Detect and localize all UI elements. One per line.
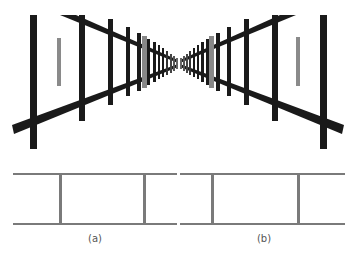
right-post [180, 58, 182, 69]
right-post [201, 42, 204, 82]
right-post [272, 15, 278, 121]
ladder-a-rung [59, 174, 62, 224]
panel-label-b: (b) [257, 233, 271, 244]
left-post [173, 56, 175, 71]
ladder-a-top-rail [13, 173, 177, 175]
ladder-b-rung [297, 174, 300, 224]
right-post-gray [209, 36, 214, 88]
left-post [147, 39, 150, 85]
left-post [126, 27, 130, 96]
right-post [227, 27, 231, 96]
left-post [30, 15, 37, 149]
ladder-b-top-rail [180, 173, 345, 175]
perspective-illusion-figure [0, 0, 358, 259]
right-post [186, 54, 188, 73]
left-post [176, 58, 178, 69]
ladder-a-bottom-rail [13, 223, 177, 225]
left-post [162, 48, 164, 77]
ladder-b-bottom-rail [180, 223, 345, 225]
right-target-bar [296, 37, 300, 86]
right-perspective-fence [180, 15, 344, 149]
right-bottom-rail [180, 64, 344, 134]
left-post-gray [142, 36, 147, 88]
right-post [193, 48, 195, 77]
ladder-a [13, 173, 177, 225]
right-post [216, 33, 220, 91]
right-post [189, 51, 191, 75]
left-post [108, 19, 113, 105]
left-post [158, 45, 160, 79]
left-top-rail [60, 15, 178, 63]
left-post [170, 54, 172, 73]
ladder-b-rung [211, 174, 214, 224]
left-post [137, 33, 141, 91]
right-post [244, 19, 249, 105]
right-post [197, 45, 199, 79]
left-target-bar [57, 38, 61, 86]
right-post [320, 15, 327, 149]
ladder-a-rung [143, 174, 146, 224]
left-perspective-fence [12, 15, 178, 149]
left-post [166, 51, 168, 75]
ladder-b [180, 173, 345, 225]
right-post [183, 56, 185, 71]
left-post [153, 42, 156, 82]
left-post [79, 15, 85, 121]
panel-label-a: (a) [88, 233, 102, 244]
right-post [206, 39, 209, 85]
